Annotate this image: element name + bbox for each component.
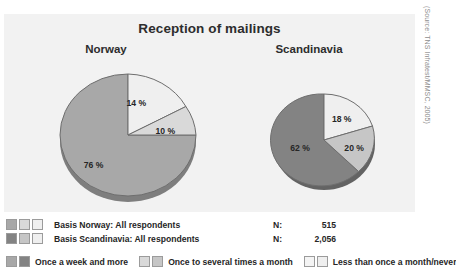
legend-swatch-norway-once-a-week bbox=[6, 256, 17, 267]
basis-n-value-scandinavia: 2,056 bbox=[296, 233, 336, 245]
basis-row-norway: Basis Norway: All respondents N: 515 bbox=[6, 219, 438, 231]
legend-label-less-than-once: Less than once a month/never bbox=[333, 257, 456, 267]
swatch-norway-once-to-several bbox=[19, 219, 30, 230]
chart-title: Reception of mailings bbox=[4, 21, 415, 36]
swatch-scandinavia-once-to-several bbox=[19, 233, 30, 244]
legend-swatches-once-a-week bbox=[6, 256, 30, 267]
basis-row-scandinavia: Basis Scandinavia: All respondents N: 2,… bbox=[6, 233, 438, 245]
swatch-scandinavia-once-a-week bbox=[6, 233, 17, 244]
basis-legend: Basis Norway: All respondents N: 515 Bas… bbox=[6, 219, 438, 247]
pie-heading-scandinavia: Scandinavia bbox=[229, 43, 389, 55]
pie-chart-norway: 14 % 10 % 76 % bbox=[59, 66, 197, 204]
legend-swatch-scandinavia-once-to-several bbox=[152, 256, 163, 267]
basis-label-norway: Basis Norway: All respondents bbox=[54, 219, 180, 231]
pie-svg-norway bbox=[59, 66, 197, 204]
legend-item-once-a-week: Once a week and more bbox=[6, 256, 128, 267]
pie-label-norway-once-to-several: 10 % bbox=[155, 126, 175, 136]
pie-label-scandinavia-once-a-week: 62 % bbox=[290, 143, 310, 153]
pie-svg-scandinavia bbox=[272, 88, 376, 192]
pie-label-scandinavia-less-than-once: 18 % bbox=[332, 114, 352, 124]
basis-label-scandinavia: Basis Scandinavia: All respondents bbox=[54, 233, 199, 245]
basis-n-label-norway: N: bbox=[273, 219, 282, 231]
swatch-scandinavia-less-than-once bbox=[32, 233, 43, 244]
pie-label-norway-once-a-week: 76 % bbox=[84, 160, 104, 170]
legend-label-once-to-several: Once to several times a month bbox=[168, 257, 293, 267]
legend-item-less-than-once: Less than once a month/never bbox=[304, 256, 456, 267]
legend-swatch-scandinavia-once-a-week bbox=[19, 256, 30, 267]
category-legend: Once a week and more Once to several tim… bbox=[6, 256, 440, 267]
basis-swatches-scandinavia bbox=[6, 233, 43, 244]
legend-swatch-scandinavia-less-than-once bbox=[317, 256, 328, 267]
chart-panel: Reception of mailings Norway Scandinavia… bbox=[4, 14, 415, 212]
legend-swatch-norway-less-than-once bbox=[304, 256, 315, 267]
swatch-norway-once-a-week bbox=[6, 219, 17, 230]
basis-swatches-norway bbox=[6, 219, 43, 230]
legend-label-once-a-week: Once a week and more bbox=[35, 257, 128, 267]
basis-n-value-norway: 515 bbox=[296, 219, 336, 231]
pie-label-scandinavia-once-to-several: 20 % bbox=[344, 143, 364, 153]
pie-chart-scandinavia: 18 % 20 % 62 % bbox=[272, 88, 376, 192]
source-note: (Source: TNS Infratest/MMSC, 2005) bbox=[325, 6, 431, 20]
swatch-norway-less-than-once bbox=[32, 219, 43, 230]
pie-heading-norway: Norway bbox=[26, 43, 186, 55]
pie-label-norway-less-than-once: 14 % bbox=[126, 98, 146, 108]
legend-swatch-norway-once-to-several bbox=[139, 256, 150, 267]
legend-swatches-less-than-once bbox=[304, 256, 328, 267]
legend-swatches-once-to-several bbox=[139, 256, 163, 267]
basis-n-label-scandinavia: N: bbox=[273, 233, 282, 245]
legend-item-once-to-several: Once to several times a month bbox=[139, 256, 293, 267]
